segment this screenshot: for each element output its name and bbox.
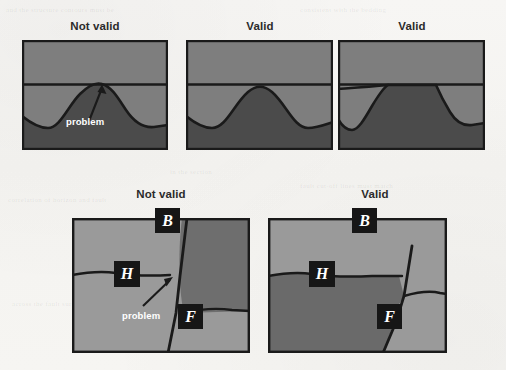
bottom-panel-1-problem-label: problem bbox=[122, 310, 160, 321]
top-panel-2-figure bbox=[186, 40, 333, 150]
ghost-text: consistent with the bedding bbox=[300, 6, 386, 14]
bottom-panel-2-label-F: F bbox=[377, 304, 402, 329]
top-panel-1-title: Not valid bbox=[60, 20, 130, 32]
bottom-panel-1-label-F: F bbox=[178, 304, 203, 329]
ghost-text: and the structure contours must be bbox=[6, 6, 114, 14]
bottom-panel-2-title: Valid bbox=[340, 188, 410, 200]
ghost-text: correlation of horizon and fault bbox=[8, 196, 107, 204]
ghost-text: in the section bbox=[170, 168, 212, 176]
top-panel-3-title: Valid bbox=[377, 20, 447, 32]
bottom-panel-1-figure bbox=[72, 218, 250, 353]
figure-page: and the structure contours must be consi… bbox=[0, 0, 506, 370]
top-panel-1-problem-label: problem bbox=[66, 116, 104, 127]
top-panel-2-title: Valid bbox=[225, 20, 295, 32]
bottom-panel-2-figure bbox=[268, 218, 447, 353]
bottom-panel-2-label-H: H bbox=[309, 261, 335, 287]
top-panel-1-figure bbox=[22, 40, 168, 150]
bottom-panel-1-label-B: B bbox=[155, 208, 180, 233]
bottom-panel-1-label-H: H bbox=[114, 261, 140, 287]
bottom-panel-2-label-B: B bbox=[352, 208, 377, 233]
bottom-panel-1-title: Not valid bbox=[126, 188, 196, 200]
top-panel-3-figure bbox=[338, 40, 485, 150]
